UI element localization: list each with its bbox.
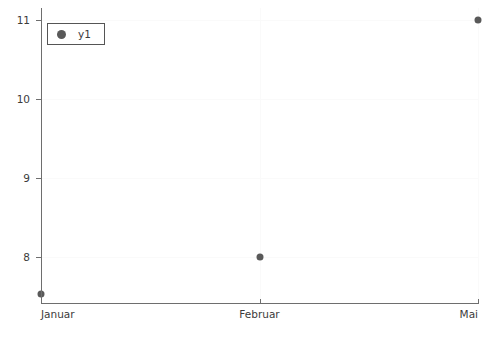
gridline-vertical (478, 8, 479, 304)
x-tick-mark (478, 299, 479, 304)
y-tick-label: 8 (23, 251, 30, 262)
y-tick-mark (36, 20, 41, 21)
x-tick-mark (41, 299, 42, 304)
y-tick-label: 9 (23, 172, 30, 183)
scatter-chart: 891011 JanuarFebruarMai y1 (0, 0, 483, 338)
chart-legend: y1 (47, 23, 105, 45)
x-tick-label: Mai (460, 309, 478, 320)
x-tick-label: Februar (239, 309, 279, 320)
y-tick-label: 10 (17, 94, 30, 105)
y-axis-spine (41, 8, 42, 304)
y-tick-mark (36, 99, 41, 100)
legend-marker-icon (57, 30, 66, 39)
y-tick-label: 11 (17, 15, 30, 26)
data-point (256, 253, 263, 260)
x-tick-label: Januar (41, 309, 75, 320)
y-tick-mark (36, 178, 41, 179)
data-point (475, 16, 482, 23)
plot-area (41, 8, 478, 304)
y-tick-mark (36, 257, 41, 258)
legend-label-y1: y1 (78, 29, 91, 40)
x-tick-mark (260, 299, 261, 304)
